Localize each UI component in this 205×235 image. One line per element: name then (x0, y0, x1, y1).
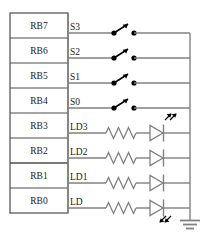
led (150, 113, 177, 141)
led-triangle (150, 176, 163, 191)
ground-symbol (180, 213, 200, 229)
schematic-canvas: RB7 RB6 RB5 RB4 RB3 RB2 RB1 RB0 S3 S2 (0, 0, 205, 235)
net-label-s3: S3 (70, 22, 80, 32)
row-ld2: LD2 (68, 147, 190, 167)
led-triangle (150, 126, 163, 141)
led-emission-arrows (159, 216, 171, 223)
spst-switch[interactable] (111, 49, 136, 61)
resistor (106, 203, 136, 214)
net-label-ld1: LD1 (70, 172, 88, 182)
resistor (106, 153, 136, 164)
net-label-s2: S2 (70, 47, 80, 57)
led-triangle (150, 201, 163, 216)
row-ld: LD (68, 197, 190, 223)
resistor (106, 178, 136, 189)
net-label-ld3: LD3 (70, 122, 88, 132)
pin-label-rb4: RB4 (30, 96, 48, 106)
row-s0: S0 (68, 97, 190, 111)
led-emission-arrows (165, 113, 177, 120)
row-ld1: LD1 (68, 172, 190, 192)
net-label-s0: S0 (70, 97, 80, 107)
spst-switch[interactable] (111, 99, 136, 111)
spst-switch[interactable] (111, 74, 136, 86)
pin-label-rb5: RB5 (30, 71, 48, 81)
net-label-ld2: LD2 (70, 147, 88, 157)
led (150, 150, 164, 167)
row-s3: S3 (68, 22, 190, 36)
pin-label-rb1: RB1 (30, 171, 48, 181)
led-triangle (150, 151, 163, 166)
net-label-s1: S1 (70, 72, 80, 82)
spst-switch[interactable] (111, 24, 136, 36)
resistor (106, 128, 136, 139)
pin-label-rb3: RB3 (30, 121, 48, 131)
led (150, 200, 171, 223)
circuit-diagram: RB7 RB6 RB5 RB4 RB3 RB2 RB1 RB0 S3 S2 (0, 0, 205, 235)
pin-label-rb2: RB2 (30, 146, 48, 156)
pin-label-rb0: RB0 (30, 196, 48, 206)
row-ld3: LD3 (68, 113, 190, 141)
pin-label-rb6: RB6 (30, 46, 48, 56)
row-s2: S2 (68, 47, 190, 61)
port-b-block: RB7 RB6 RB5 RB4 RB3 RB2 RB1 RB0 (10, 13, 68, 213)
led (150, 175, 164, 192)
pin-label-rb7: RB7 (30, 21, 48, 31)
net-label-ld: LD (70, 197, 83, 207)
row-s1: S1 (68, 72, 190, 86)
